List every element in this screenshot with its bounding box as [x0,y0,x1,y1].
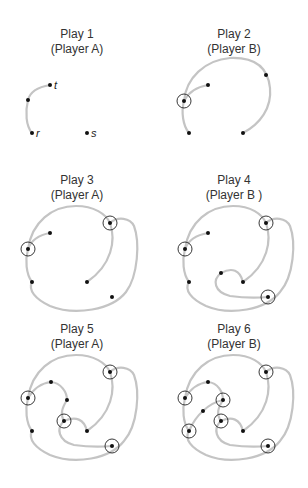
spot [108,221,112,225]
curve [28,206,112,282]
spot [108,370,112,374]
panel-title: Play 2 [217,27,251,41]
panel-subtitle: (Player B) [207,42,260,56]
spot-t [206,380,210,384]
spot-s [85,280,89,284]
panel-play-1: Play 1 (Player A) t r s [26,27,103,139]
panel-play-3: Play 3 (Player A) [21,173,137,311]
spot-new [264,73,268,77]
sprouts-diagram: Play 1 (Player A) t r s Play 2 (Player B… [0,0,308,488]
spot [26,396,30,400]
spot-s [241,131,245,135]
spot [221,398,225,402]
panel-subtitle: (Player A) [51,42,104,56]
spot-r [30,429,34,433]
panel-title: Play 5 [60,322,94,336]
spot-s [241,280,245,284]
panel-subtitle: (Player A) [51,188,104,202]
spot [266,444,270,448]
spot [266,295,270,299]
spot [264,370,268,374]
spot [110,444,114,448]
spot-s [241,429,245,433]
spot-r [187,280,191,284]
spot-r [187,131,191,135]
spot-r [187,429,191,433]
spot-new [110,295,114,299]
panel-play-5: Play 5 (Player A) [21,322,137,460]
spot [26,247,30,251]
spot [183,247,187,251]
spot-new [65,398,69,402]
panel-subtitle: (Player B) [207,337,260,351]
spot-t [206,83,210,87]
panel-subtitle: (Player B ) [206,188,263,202]
curve [184,58,270,133]
spot-r [30,131,34,135]
spot-t [48,231,52,235]
panel-title: Play 4 [217,173,251,187]
spot-t [49,380,53,384]
panel-play-6: Play 6 (Player B) [178,322,293,460]
spot [182,99,186,103]
spot-r [30,280,34,284]
panel-play-4: Play 4 (Player B ) [178,173,293,311]
curve [59,419,112,447]
curve [216,270,268,298]
panel-title: Play 3 [60,173,94,187]
spot-t [48,83,52,87]
panel-subtitle: (Player A) [51,337,104,351]
spot [26,98,30,102]
label-s: s [91,127,97,139]
spot-new [201,409,205,413]
spot-s [85,131,89,135]
label-r: r [36,127,41,139]
panel-title: Play 6 [217,322,251,336]
spot-s [85,429,89,433]
curve [26,398,32,431]
panel-title: Play 1 [60,27,94,41]
spot [62,419,66,423]
panel-play-2: Play 2 (Player B) [177,27,270,135]
spot [219,419,223,423]
spot [264,221,268,225]
spot-new [219,271,223,275]
spot [183,396,187,400]
spot-t [206,231,210,235]
curve [26,85,50,133]
label-t: t [54,79,58,91]
